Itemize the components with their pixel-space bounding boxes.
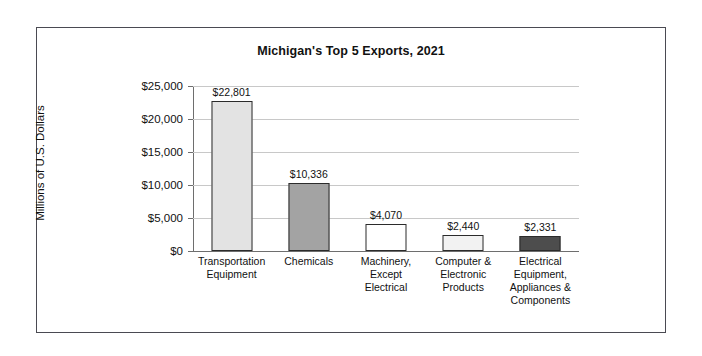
bar-group[interactable]: $4,070Machinery,ExceptElectrical xyxy=(347,86,424,251)
y-tick-label: $25,000 xyxy=(141,80,183,92)
plot-area: $0$5,000$10,000$15,000$20,000$25,000 $22… xyxy=(193,86,579,251)
y-tick-label: $0 xyxy=(170,245,183,257)
y-tick-label: $15,000 xyxy=(141,146,183,158)
axis-baseline xyxy=(193,251,579,252)
x-category-label: Computer &ElectronicProducts xyxy=(421,255,505,294)
bar[interactable] xyxy=(365,224,406,251)
x-category-label-line: Computer & xyxy=(421,255,505,268)
bar-group[interactable]: $22,801TransportationEquipment xyxy=(193,86,270,251)
y-tick-mark xyxy=(188,251,193,252)
x-category-label-line: Transportation xyxy=(190,255,274,268)
x-category-label-line: Except xyxy=(344,268,428,281)
bar-group[interactable]: $2,440Computer &ElectronicProducts xyxy=(425,86,502,251)
x-category-label-line: Electrical xyxy=(498,255,582,268)
bar[interactable] xyxy=(443,235,484,251)
x-category-label-line: Equipment xyxy=(190,268,274,281)
bar[interactable] xyxy=(288,183,329,251)
bar[interactable] xyxy=(211,101,252,251)
bar-value-label: $4,070 xyxy=(370,209,402,221)
x-category-label-line: Machinery, xyxy=(344,255,428,268)
x-category-label: ElectricalEquipment,Appliances &Componen… xyxy=(498,255,582,307)
bar-group[interactable]: $2,331ElectricalEquipment,Appliances &Co… xyxy=(502,86,579,251)
bar-group[interactable]: $10,336Chemicals xyxy=(270,86,347,251)
x-category-label-line: Chemicals xyxy=(267,255,351,268)
x-category-label: Machinery,ExceptElectrical xyxy=(344,255,428,294)
x-category-label-line: Electronic xyxy=(421,268,505,281)
x-category-label-line: Electrical xyxy=(344,281,428,294)
y-tick-label: $20,000 xyxy=(141,113,183,125)
chart-frame: Michigan's Top 5 Exports, 2021 Millions … xyxy=(36,27,666,333)
bar-value-label: $2,440 xyxy=(447,220,479,232)
x-category-label-line: Equipment, xyxy=(498,268,582,281)
x-category-label-line: Products xyxy=(421,281,505,294)
y-tick-label: $5,000 xyxy=(148,212,183,224)
x-category-label: Chemicals xyxy=(267,255,351,268)
y-tick-label: $10,000 xyxy=(141,179,183,191)
bar-value-label: $2,331 xyxy=(524,221,556,233)
bar[interactable] xyxy=(520,236,561,251)
x-category-label-line: Components xyxy=(498,294,582,307)
x-category-label-line: Appliances & xyxy=(498,281,582,294)
bar-value-label: $22,801 xyxy=(213,86,251,98)
x-category-label: TransportationEquipment xyxy=(190,255,274,281)
chart-title: Michigan's Top 5 Exports, 2021 xyxy=(37,44,665,58)
bar-value-label: $10,336 xyxy=(290,168,328,180)
y-axis-title: Millions of U.S. Dollars xyxy=(34,88,52,238)
